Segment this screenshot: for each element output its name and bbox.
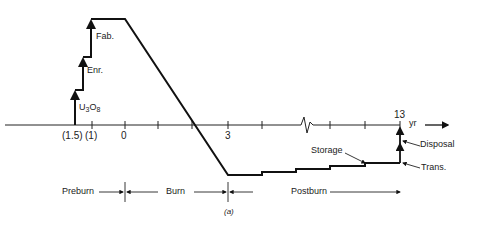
- tick-label-3: 3: [225, 131, 231, 141]
- phase-postburn-label: Postburn: [291, 187, 327, 196]
- transport-leader: [403, 163, 420, 168]
- fabrication-arrow-icon: [83, 21, 91, 57]
- fabrication-label: Fab.: [96, 32, 114, 41]
- tick-label-0: 0: [121, 131, 127, 141]
- phase-burn-label: Burn: [166, 187, 185, 196]
- tick-label-minus-1: (1): [85, 131, 97, 141]
- axis-break-icon: [298, 117, 313, 133]
- u3o8-label: U3O8: [79, 103, 100, 113]
- storage-leader: [345, 153, 365, 163]
- enrichment-arrow-icon: [75, 59, 83, 90]
- storage-label: Storage: [311, 146, 343, 155]
- tick-label-13: 13: [394, 110, 405, 120]
- axis-unit-label: yr: [409, 119, 417, 128]
- cash-flow-curve: [75, 19, 400, 175]
- phase-preburn-label: Preburn: [62, 187, 94, 196]
- figure-caption: (a): [224, 208, 234, 216]
- phase-timeline: [99, 182, 400, 202]
- disposal-label: Disposal: [420, 140, 455, 149]
- enrichment-label: Enr.: [87, 66, 103, 75]
- transport-label: Trans.: [421, 163, 446, 172]
- disposal-leader: [403, 141, 420, 146]
- tick-label-minus-1.5: (1.5): [62, 131, 83, 141]
